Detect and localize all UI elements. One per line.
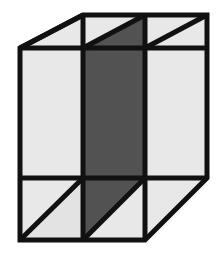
wireframe-box-diagram bbox=[0, 0, 224, 257]
figure-root bbox=[0, 0, 224, 257]
face-front-face bbox=[83, 48, 145, 178]
